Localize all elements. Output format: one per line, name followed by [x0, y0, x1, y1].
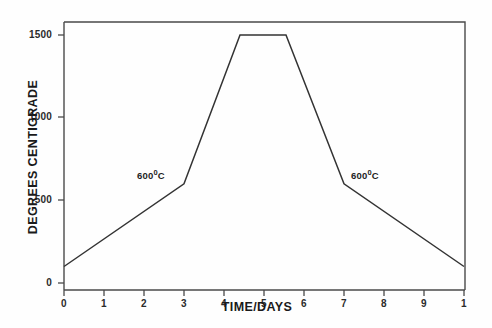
x-tick-label-7: 7 — [334, 298, 354, 309]
y-tick-label-0: 0 — [18, 277, 52, 288]
annotation-right-value: 600 — [351, 170, 367, 181]
x-tick-label-2: 2 — [134, 298, 154, 309]
x-tick-label-9: 9 — [414, 298, 434, 309]
annotation-left-unit: C — [158, 170, 165, 181]
y-axis-title: DEGREES CENTIGRADE — [26, 62, 40, 252]
y-axis-ticks — [58, 35, 64, 283]
x-axis-title: TIME/DAYS — [182, 300, 332, 314]
x-tick-label-0: 0 — [54, 298, 74, 309]
annotation-left-value: 600 — [137, 170, 153, 181]
x-tick-label-10: 1 — [454, 298, 474, 309]
annotation-right-600c: 6000C — [351, 170, 379, 181]
x-tick-label-8: 8 — [374, 298, 394, 309]
chart-figure: 1500 1000 500 0 0 1 2 3 4 5 6 7 8 9 1 DE… — [0, 0, 492, 328]
plot-frame-top-right — [64, 22, 465, 290]
y-tick-label-1500: 1500 — [18, 29, 52, 40]
line-chart-canvas — [0, 0, 492, 328]
annotation-left-600c: 6000C — [137, 170, 165, 181]
temperature-profile-line — [64, 35, 464, 267]
x-axis-ticks — [64, 290, 464, 296]
annotation-right-unit: C — [372, 170, 379, 181]
x-tick-label-1: 1 — [94, 298, 114, 309]
